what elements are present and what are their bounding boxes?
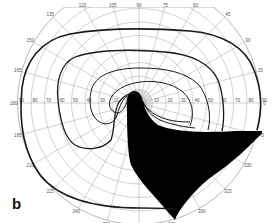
meridian-label-225: 225 <box>47 189 55 194</box>
axis-tick-label: 40 <box>195 98 201 103</box>
meridian-label-315: 315 <box>224 189 232 194</box>
scotoma-region <box>127 91 262 220</box>
axis-tick-label: 20 <box>168 98 174 103</box>
axis-tick-label: 70 <box>46 98 52 103</box>
meridian-label-195: 195 <box>14 133 22 138</box>
axis-tick-label: 80 <box>249 98 255 103</box>
meridian-label-90: 90 <box>136 3 142 8</box>
meridian-label-165: 165 <box>14 68 22 73</box>
meridian-label-135: 135 <box>47 12 55 17</box>
meridian-label-15: 15 <box>258 68 264 73</box>
meridian-label-285: 285 <box>168 222 176 223</box>
meridian-label-120: 120 <box>79 3 87 8</box>
axis-tick-label: 50 <box>208 98 214 103</box>
meridian-label-75: 75 <box>163 3 169 8</box>
axis-tick-label: 50 <box>73 98 79 103</box>
axis-tick-label: 30 <box>100 98 106 103</box>
meridian-label-300: 300 <box>198 209 206 214</box>
meridian-label-30: 30 <box>245 38 251 43</box>
meridian-label-45: 45 <box>225 12 231 17</box>
meridian-120 <box>78 0 136 98</box>
meridian-label-180: 180 <box>10 101 18 106</box>
meridian-label-330: 330 <box>244 163 252 168</box>
axis-tick-label: 30 <box>181 98 187 103</box>
axis-tick-label: 60 <box>60 98 66 103</box>
meridian-60 <box>142 0 200 98</box>
meridian-label-60: 60 <box>193 3 199 8</box>
axis-tick-label: 10 <box>154 98 160 103</box>
meridian-label-255: 255 <box>103 222 111 223</box>
axis-tick-label: 70 <box>235 98 241 103</box>
visual-field-chart: 0153045607590105120135150165180195210225… <box>0 0 277 223</box>
panel-label: b <box>12 195 21 212</box>
meridian-210 <box>34 106 135 164</box>
axis-tick-label: 90 <box>262 98 268 103</box>
axis-tick-label: 80 <box>33 98 39 103</box>
meridian-label-150: 150 <box>27 38 35 43</box>
axis-tick-label: 40 <box>87 98 93 103</box>
meridian-label-240: 240 <box>72 209 80 214</box>
meridian-label-105: 105 <box>109 3 117 8</box>
